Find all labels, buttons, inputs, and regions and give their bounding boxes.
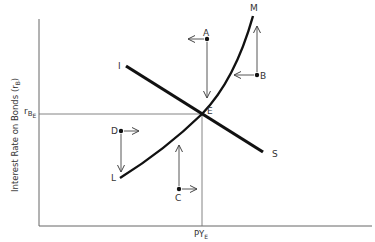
is-end-label: S xyxy=(272,149,278,159)
point-d-dot xyxy=(119,129,123,133)
point-b-label: B xyxy=(260,71,266,81)
point-b-dot xyxy=(255,73,259,77)
is-lm-diagram: A B C D L M I S E rBE PYE Interest Rate … xyxy=(0,0,375,242)
point-d-label: D xyxy=(111,126,118,136)
point-c-label: C xyxy=(175,193,181,203)
is-start-label: I xyxy=(118,61,121,71)
lm-curve xyxy=(120,16,253,178)
lm-start-label: L xyxy=(111,173,116,183)
lm-end-label: M xyxy=(250,3,258,13)
equilibrium-label: E xyxy=(207,106,213,116)
point-a-label: A xyxy=(203,28,210,38)
point-c-dot xyxy=(177,187,181,191)
is-line xyxy=(126,66,263,152)
y-axis-title: Interest Rate on Bonds (rB) xyxy=(10,78,21,192)
y-tick-label: rBE xyxy=(24,106,37,119)
x-tick-label: PYE xyxy=(194,229,208,240)
